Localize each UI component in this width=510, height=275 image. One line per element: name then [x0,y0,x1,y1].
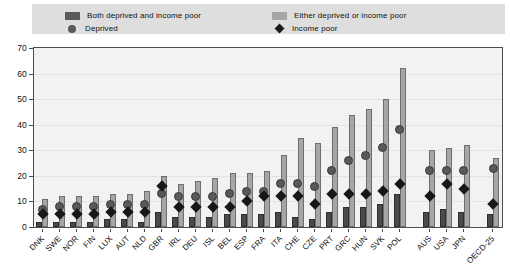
y-tick-label: 50 [17,94,27,104]
legend-item-both: Both deprived and income poor [65,10,201,21]
x-axis-label-ita: ITA [269,234,284,249]
x-axis-label-jpn: JPN [450,234,467,251]
bar-either-deprived-or-income-poor [400,68,406,227]
plot-area [33,47,503,228]
x-axis-label-oecd-25: OECD-25 [465,234,496,265]
legend-swatch-dark-icon [65,12,80,20]
bar-either-deprived-or-income-poor [332,127,338,227]
x-tick [348,229,349,232]
x-axis-label-gbr: GBR [146,234,165,253]
x-tick [110,229,111,232]
x-tick [178,229,179,232]
x-tick [76,229,77,232]
y-tick-label: 20 [17,171,27,181]
x-tick [399,229,400,232]
y-tick-label: 10 [17,196,27,206]
y-axis: 010203040506070 [0,47,33,229]
x-axis-label-pol: POL [385,234,403,252]
x-axis-label-irl: IRL [167,234,182,249]
x-tick [42,229,43,232]
bar-either-deprived-or-income-poor [429,150,435,227]
x-axis-label-esp: ESP [232,234,250,252]
gridline [34,125,502,126]
x-tick [297,229,298,232]
x-axis-label-che: CHE [283,234,302,253]
x-tick [446,229,447,232]
x-tick [59,229,60,232]
legend-label-both: Both deprived and income poor [87,11,201,20]
x-axis-label-grc: GRC [333,234,352,253]
chart-legend: Both deprived and income poor Either dep… [32,4,505,34]
x-axis-label-hun: HUN [350,234,369,253]
legend-swatch-light-icon [272,12,287,20]
x-axis-label-cze: CZE [300,234,318,252]
y-tick-label: 70 [17,43,27,53]
x-tick [429,229,430,232]
x-tick [93,229,94,232]
x-axis-label-nor: NOR [61,234,80,253]
legend-item-either: Either deprived or income poor [272,10,406,21]
chart-root: Both deprived and income poor Either dep… [0,0,510,275]
x-tick [331,229,332,232]
gridline [34,74,502,75]
x-axis-label-swe: SWE [43,234,62,253]
y-tick-label: 40 [17,120,27,130]
x-axis-label-deu: DEU [181,234,200,253]
x-tick [229,229,230,232]
legend-circle-icon [68,25,76,33]
x-axis: DNKSWENORFINLUXAUTNLDGBRIRLDEUISLBELESPF… [33,229,503,275]
x-axis-label-isl: ISL [201,234,216,249]
bar-either-deprived-or-income-poor [366,109,372,227]
x-axis-label-prt: PRT [317,234,335,252]
x-axis-label-dnk: DNK [27,234,46,253]
x-tick [161,229,162,232]
legend-diamond-icon [275,24,285,34]
marker-deprived [208,192,217,201]
x-axis-label-usa: USA [432,234,450,252]
x-tick [365,229,366,232]
x-tick [382,229,383,232]
x-axis-label-fra: FRA [249,234,267,252]
x-tick [144,229,145,232]
x-tick [212,229,213,232]
x-tick [263,229,264,232]
bar-either-deprived-or-income-poor [383,99,389,227]
marker-deprived [310,182,319,191]
x-axis-label-bel: BEL [216,234,233,251]
legend-label-income-poor: Income poor [292,24,338,33]
y-tick-label: 30 [17,145,27,155]
x-axis-label-svk: SVK [368,234,386,252]
x-tick [280,229,281,232]
x-tick [127,229,128,232]
x-tick [314,229,315,232]
bar-either-deprived-or-income-poor [230,173,236,227]
x-axis-label-lux: LUX [96,234,114,252]
x-tick [492,229,493,232]
legend-label-either: Either deprived or income poor [294,11,406,20]
bar-either-deprived-or-income-poor [349,115,355,228]
marker-deprived [489,164,498,173]
legend-item-deprived: Deprived [65,23,118,34]
marker-deprived [174,192,183,201]
x-tick [463,229,464,232]
x-axis-label-fin: FIN [81,234,97,250]
marker-deprived [191,192,200,201]
legend-item-income-poor: Income poor [272,23,338,34]
x-axis-label-aus: AUS [415,234,433,252]
x-axis-label-nld: NLD [130,234,148,252]
legend-label-deprived: Deprived [85,24,118,33]
y-tick-label: 0 [22,222,27,232]
x-tick [195,229,196,232]
gridline [34,99,502,100]
x-tick [246,229,247,232]
y-tick-label: 60 [17,69,27,79]
x-axis-label-aut: AUT [113,234,131,252]
